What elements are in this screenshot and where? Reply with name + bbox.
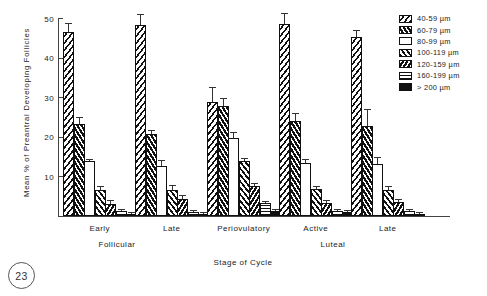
bar <box>362 126 373 216</box>
error-bar-cap <box>209 87 216 88</box>
bar <box>167 190 178 216</box>
legend-swatch <box>399 15 412 23</box>
legend-swatch <box>399 83 412 91</box>
bar <box>300 163 311 216</box>
legend-swatch <box>399 60 412 68</box>
legend-item: 60-79 µm <box>399 24 485 35</box>
bar <box>207 102 218 216</box>
error-bar <box>284 13 285 24</box>
error-bar-cap <box>334 209 341 210</box>
error-bar-cap <box>107 200 114 201</box>
bar <box>146 134 157 216</box>
legend-label: 100-119 µm <box>417 48 459 57</box>
error-bar-cap <box>158 160 165 161</box>
bar <box>249 186 260 216</box>
bar <box>383 190 394 216</box>
y-axis-tick-label: 20 <box>44 133 54 142</box>
error-bar-cap <box>97 186 104 187</box>
error-bar-cap <box>364 109 371 110</box>
y-axis-title: Mean % of Preantral Developing Follicles <box>22 15 31 211</box>
bar <box>393 202 404 216</box>
bar <box>351 37 362 216</box>
bar <box>63 32 74 216</box>
figure-root: Mean % of Preantral Developing Follicles… <box>0 0 487 296</box>
legend-label: 80-99 µm <box>417 37 451 46</box>
error-bar <box>68 23 69 32</box>
bar <box>332 211 343 216</box>
legend-label: 120-159 µm <box>417 60 460 69</box>
error-bar-cap <box>281 13 288 14</box>
bar <box>321 203 332 216</box>
bar <box>260 203 271 216</box>
error-bar-cap <box>148 130 155 131</box>
figure-number-badge: 23 <box>8 262 35 289</box>
legend: 40-59 µm60-79 µm80-99 µm100-119 µm120-15… <box>399 13 485 93</box>
legend-swatch <box>399 37 412 45</box>
error-bar-cap <box>406 209 413 210</box>
y-axis-tick-label: 10 <box>44 172 54 181</box>
x-axis-title: Stage of Cycle <box>213 258 272 267</box>
bar <box>404 211 415 216</box>
error-bar-cap <box>262 201 269 202</box>
legend-label: 60-79 µm <box>417 26 451 35</box>
legend-label: 40-59 µm <box>417 14 451 23</box>
y-axis-tick-label: 50 <box>44 14 54 23</box>
legend-label: 160-199 µm <box>417 71 460 80</box>
bar <box>228 138 239 216</box>
bar-group <box>279 18 357 216</box>
error-bar <box>367 109 368 126</box>
y-axis-tick-label: 30 <box>44 93 54 102</box>
bar-group <box>207 18 285 216</box>
y-axis-tick-label: 40 <box>44 54 54 63</box>
error-bar-cap <box>251 183 258 184</box>
error-bar-cap <box>385 186 392 187</box>
legend-swatch <box>399 49 412 57</box>
error-bar-cap <box>395 199 402 200</box>
bar <box>218 106 229 216</box>
error-bar-cap <box>416 212 423 213</box>
bar <box>177 199 188 216</box>
error-bar-cap <box>76 117 83 118</box>
error-bar-cap <box>86 159 93 160</box>
error-bar-cap <box>353 30 360 31</box>
error-bar-cap <box>65 23 72 24</box>
error-bar-cap <box>200 212 207 213</box>
legend-item: 40-59 µm <box>399 13 485 24</box>
error-bar-cap <box>169 185 176 186</box>
bar-group <box>63 18 141 216</box>
legend-label: > 200 µm <box>417 83 451 92</box>
error-bar <box>223 98 224 106</box>
x-axis-category-label: Early <box>89 224 110 233</box>
y-axis-line <box>58 18 59 216</box>
x-axis-group-label: Luteal <box>321 240 346 249</box>
x-axis-category-label: Periovulatory <box>217 224 270 233</box>
error-bar-cap <box>344 210 351 211</box>
error-bar-cap <box>272 209 279 210</box>
x-axis-category-label: Late <box>163 224 181 233</box>
error-bar-cap <box>241 158 248 159</box>
error-bar-cap <box>220 98 227 99</box>
error-bar <box>356 30 357 38</box>
error-bar-cap <box>323 200 330 201</box>
bar <box>74 124 85 216</box>
bar <box>95 190 106 216</box>
error-bar <box>212 87 213 103</box>
error-bar-cap <box>190 210 197 211</box>
legend-item: 100-119 µm <box>399 47 485 58</box>
error-bar-cap <box>313 186 320 187</box>
bar <box>188 212 199 216</box>
x-axis-category-label: Active <box>303 224 328 233</box>
error-bar <box>377 157 378 165</box>
error-bar-cap <box>179 195 186 196</box>
legend-swatch <box>399 26 412 34</box>
bar <box>156 166 167 216</box>
bar <box>116 211 127 216</box>
bar <box>105 204 116 216</box>
legend-item: > 200 µm <box>399 81 485 92</box>
bar-group <box>135 18 213 216</box>
error-bar-cap <box>230 132 237 133</box>
x-axis-line <box>58 216 450 217</box>
bar <box>414 214 425 216</box>
error-bar-cap <box>118 209 125 210</box>
error-bar-cap <box>292 113 299 114</box>
